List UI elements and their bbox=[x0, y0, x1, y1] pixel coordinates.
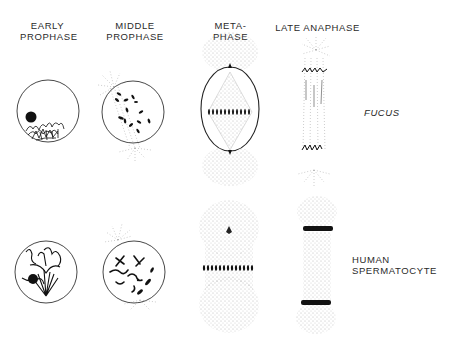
fucus-early-prophase-cell bbox=[17, 80, 79, 142]
nucleolus-icon bbox=[26, 112, 37, 123]
human-metaphase-cell bbox=[199, 200, 259, 333]
fucus-metaphase-cell bbox=[201, 32, 259, 186]
human-late-anaphase-cell bbox=[296, 196, 337, 334]
fucus-late-anaphase-cell bbox=[298, 36, 330, 188]
nucleolus-icon bbox=[28, 274, 38, 284]
human-early-prophase-cell bbox=[15, 241, 77, 303]
human-middle-prophase-cell bbox=[103, 224, 165, 310]
mitosis-diagram bbox=[0, 0, 452, 355]
fucus-middle-prophase-cell bbox=[98, 71, 164, 162]
